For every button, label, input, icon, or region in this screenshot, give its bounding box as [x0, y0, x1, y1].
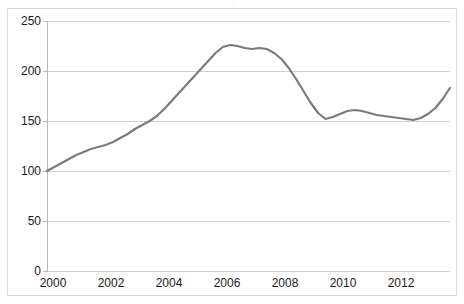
line-chart: · 250 200 150 100 50 0 2000 2002: [0, 0, 464, 304]
series-layer: [0, 0, 464, 304]
plot-wrapper: 250 200 150 100 50 0 2000 2002 2004 2006…: [0, 0, 464, 304]
series-line-index: [47, 45, 450, 171]
